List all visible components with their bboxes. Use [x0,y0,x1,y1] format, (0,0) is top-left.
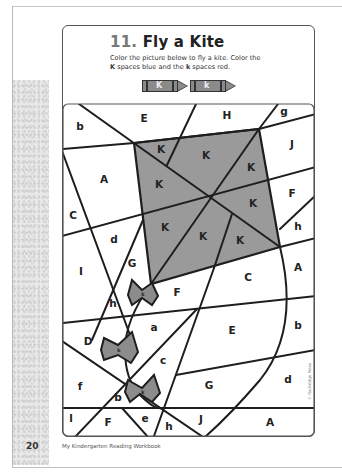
region-label: I [79,265,83,277]
region-label: K [249,197,258,209]
region-label: K [161,221,170,233]
region-label: K [202,149,211,161]
region-label: D [84,335,93,347]
region-label: a [150,321,157,333]
region-label: E [140,112,147,124]
region-label: e [141,412,148,424]
region-label: K [199,230,208,242]
region-label: A [100,173,109,185]
region-label: d [284,373,292,385]
copyright: © Rockridge Press [307,363,312,400]
region-label: J [289,138,294,150]
region-label: K [236,234,245,246]
region-label: b [114,391,122,403]
region-label: K [247,161,256,173]
region-label: h [109,297,116,309]
region-label: A [266,416,275,428]
page-number: 20 [26,441,39,451]
region-label: d [110,233,118,245]
region-label: g [280,105,288,117]
footer-title: My Kindergarten Reading Workbook [62,443,161,449]
region-label: A [294,261,303,273]
region-label: H [223,109,232,121]
region-label: C [244,271,252,283]
region-label: h [165,420,172,432]
region-label: c [160,354,166,366]
region-label: G [205,379,214,391]
region-label: K [157,143,166,155]
region-label: b [76,120,84,132]
region-label: F [104,416,111,428]
region-label: b [294,319,302,331]
region-label: G [128,257,137,269]
region-label: h [294,220,301,232]
region-label: f [78,380,83,392]
region-label: l [69,412,73,424]
region-label: C [69,209,77,221]
region-label: F [288,187,295,199]
region-label: J [198,413,203,425]
kite-drawing: k k k bEHgKKJAKKFCKdKKKhGICAFhaEbDcGdfbl… [62,104,316,437]
region-label: K [155,178,164,190]
region-label: F [173,286,180,298]
region-label: E [228,324,235,336]
